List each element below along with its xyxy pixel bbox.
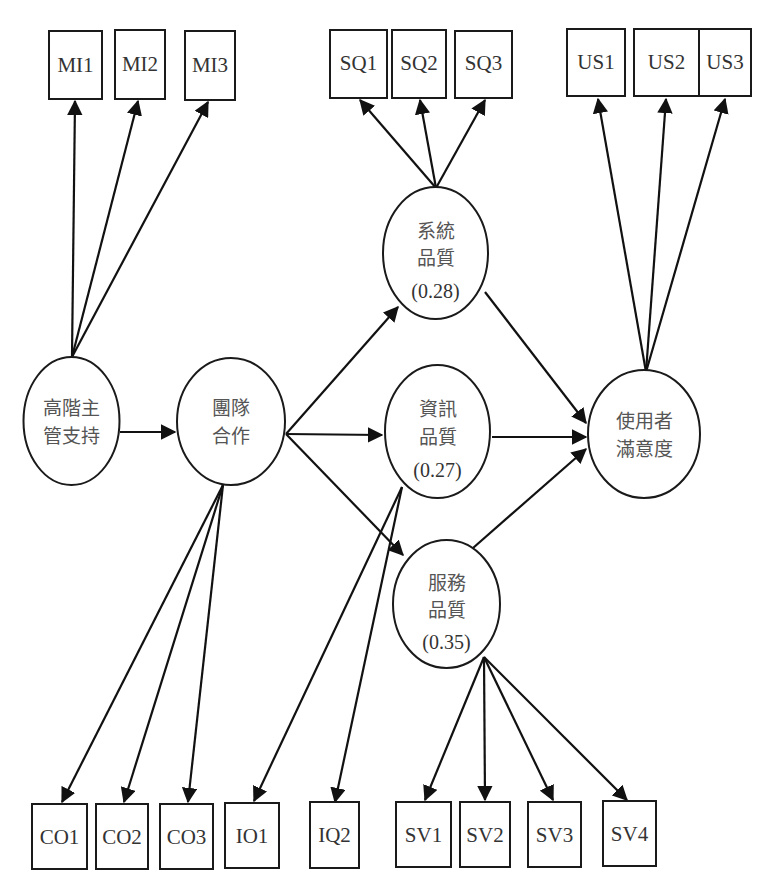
edge-us-us1 xyxy=(598,99,646,372)
edge-svq-sv4 xyxy=(484,657,627,800)
latent-teamwork: 團隊 合作 xyxy=(177,358,285,485)
svg-text:CO2: CO2 xyxy=(102,825,142,849)
diagram-svg: MI1 MI2 MI3 SQ1 SQ2 SQ3 US1 US2 US3 高階主 … xyxy=(0,0,771,891)
indicator-IO1: IO1 xyxy=(225,803,279,868)
edge-teamwork-co3 xyxy=(188,485,223,802)
edge-sysq-us xyxy=(485,292,586,423)
indicator-MI1: MI1 xyxy=(49,31,102,99)
indicator-SQ1: SQ1 xyxy=(330,30,387,98)
indicator-SV4: SV4 xyxy=(603,801,656,866)
r-squared-label: (0.35) xyxy=(422,631,470,654)
indicator-MI2: MI2 xyxy=(115,30,165,99)
edge-sysq-sq1 xyxy=(360,100,436,188)
svg-text:使用者: 使用者 xyxy=(616,410,673,432)
edge-teamwork-sysq xyxy=(286,307,398,434)
indicator-CO1: CO1 xyxy=(32,804,87,869)
indicator-SV1: SV1 xyxy=(396,802,451,867)
sem-diagram: MI1 MI2 MI3 SQ1 SQ2 SQ3 US1 US2 US3 高階主 … xyxy=(0,0,771,891)
svg-text:管支持: 管支持 xyxy=(43,425,100,447)
indicator-CO2: CO2 xyxy=(96,804,148,869)
edge-teamwork-svq xyxy=(286,434,403,555)
edge-teamwork-co1 xyxy=(62,485,223,802)
edge-sysq-sq2 xyxy=(420,100,436,188)
edge-svq-sv2 xyxy=(484,657,485,800)
latent-user-satisfaction: 使用者 滿意度 xyxy=(588,370,700,498)
indicator-SV3: SV3 xyxy=(528,802,581,867)
indicator-CO3: CO3 xyxy=(160,804,213,869)
indicator-MI3: MI3 xyxy=(185,31,235,100)
svg-text:品質: 品質 xyxy=(419,426,457,448)
svg-text:IO1: IO1 xyxy=(236,824,269,848)
svg-text:滿意度: 滿意度 xyxy=(616,438,673,460)
svg-text:US1: US1 xyxy=(577,50,614,74)
edge-teamwork-infoq xyxy=(286,434,382,435)
svg-text:IQ2: IQ2 xyxy=(318,823,351,847)
svg-text:SV3: SV3 xyxy=(536,823,573,847)
edge-us-us2 xyxy=(646,99,666,372)
edge-tms-mi1 xyxy=(72,101,75,357)
indicator-SV2: SV2 xyxy=(460,802,510,867)
svg-text:品質: 品質 xyxy=(428,599,466,621)
svg-text:系統: 系統 xyxy=(417,220,455,242)
svg-text:CO1: CO1 xyxy=(40,825,80,849)
edge-tms-mi3 xyxy=(72,102,208,357)
latent-service-quality: 服務 品質 (0.35) xyxy=(393,540,500,668)
edge-infoq-io1 xyxy=(254,487,402,801)
indicator-SQ3: SQ3 xyxy=(455,31,512,98)
edge-sysq-sq3 xyxy=(436,100,485,188)
svg-text:資訊: 資訊 xyxy=(419,398,457,420)
svg-text:團隊: 團隊 xyxy=(212,397,250,419)
edge-tms-mi2 xyxy=(72,101,138,357)
svg-text:MI2: MI2 xyxy=(122,52,158,76)
r-squared-label: (0.27) xyxy=(413,459,461,482)
indicator-SQ2: SQ2 xyxy=(392,30,446,98)
indicator-US2: US2 xyxy=(634,29,699,96)
svg-text:SQ2: SQ2 xyxy=(400,51,437,75)
edge-svq-sv3 xyxy=(484,657,553,800)
svg-text:合作: 合作 xyxy=(212,425,250,447)
edge-teamwork-co2 xyxy=(124,485,223,802)
svg-text:SV4: SV4 xyxy=(611,822,649,846)
indicator-IQ2: IQ2 xyxy=(310,802,359,868)
edge-svq-sv1 xyxy=(425,657,484,800)
svg-text:MI3: MI3 xyxy=(192,53,228,77)
latent-system-quality: 系統 品質 (0.28) xyxy=(383,187,488,319)
svg-text:CO3: CO3 xyxy=(167,825,207,849)
latent-top-management-support: 高階主 管支持 xyxy=(24,357,120,485)
svg-text:US3: US3 xyxy=(706,50,743,74)
svg-text:品質: 品質 xyxy=(417,247,455,269)
svg-text:高階主: 高階主 xyxy=(43,397,100,419)
svg-text:SV1: SV1 xyxy=(405,823,442,847)
edge-svq-us xyxy=(473,449,586,548)
svg-text:US2: US2 xyxy=(648,50,685,74)
edge-infoq-iq2 xyxy=(335,487,402,802)
svg-text:SV2: SV2 xyxy=(466,823,503,847)
svg-text:SQ1: SQ1 xyxy=(340,51,377,75)
svg-text:SQ3: SQ3 xyxy=(465,51,502,75)
indicator-US1: US1 xyxy=(567,29,625,96)
edge-us-us3 xyxy=(646,99,725,372)
svg-text:MI1: MI1 xyxy=(57,53,93,77)
svg-text:服務: 服務 xyxy=(428,572,466,594)
r-squared-label: (0.28) xyxy=(411,280,459,303)
indicator-US3: US3 xyxy=(699,29,751,96)
latent-information-quality: 資訊 品質 (0.27) xyxy=(385,365,490,498)
